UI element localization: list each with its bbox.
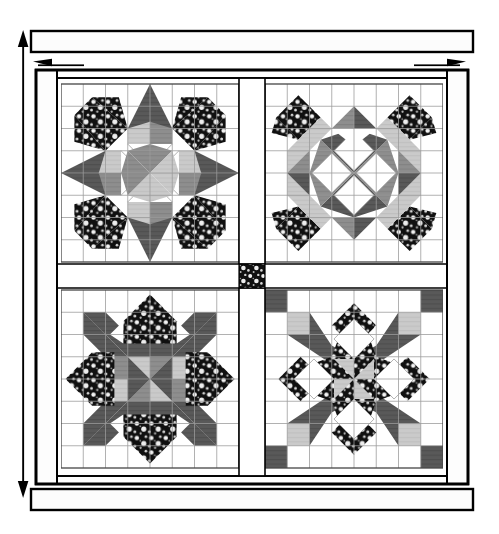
bottom-border-strip xyxy=(31,489,473,510)
quilt-block-top-right xyxy=(265,84,443,262)
top-border-strip xyxy=(31,31,473,52)
quilt-block-bottom-left xyxy=(61,290,239,468)
quilt-diagram xyxy=(0,0,499,534)
quilt-block-top-left xyxy=(61,84,239,262)
quilt-diagram-svg xyxy=(0,0,499,534)
quilt-top xyxy=(36,70,468,484)
sashing-cornerstone xyxy=(239,264,265,288)
quilt-block-bottom-right xyxy=(265,290,443,468)
